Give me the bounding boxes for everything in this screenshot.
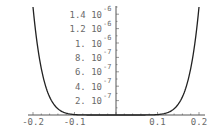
y-tick-exponent: -6 [103,34,111,42]
plot-area: -0.2-0.10.10.2 2. 10-74. 10-76. 10-78. 1… [0,0,221,135]
x-tick-label: 0.1 [149,117,165,127]
y-tick-exponent: -7 [103,92,111,100]
y-tick-exponent: -7 [103,48,111,56]
y-tick-exponent: -7 [103,77,111,85]
y-tick-label: 2. 10 [75,96,102,106]
y-tick-labels: 2. 10-74. 10-76. 10-78. 10-71. 10-61.2 1… [69,5,111,106]
axes [28,6,205,115]
y-tick-label: 8. 10 [75,53,102,63]
y-tick-label: 1. 10 [75,39,102,49]
y-tick-exponent: -6 [103,5,111,13]
y-tick-label: 4. 10 [75,82,102,92]
y-tick-exponent: -6 [103,20,111,28]
y-tick-label: 6. 10 [75,67,102,77]
x-tick-label: 0.2 [191,117,207,127]
x-tick-labels: -0.2-0.10.10.2 [22,117,207,127]
x-tick-label: -0.1 [64,117,86,127]
x-tick-label: -0.2 [22,117,44,127]
y-tick-exponent: -7 [103,63,111,71]
y-tick-label: 1.2 10 [69,24,102,34]
y-tick-label: 1.4 10 [69,10,102,20]
